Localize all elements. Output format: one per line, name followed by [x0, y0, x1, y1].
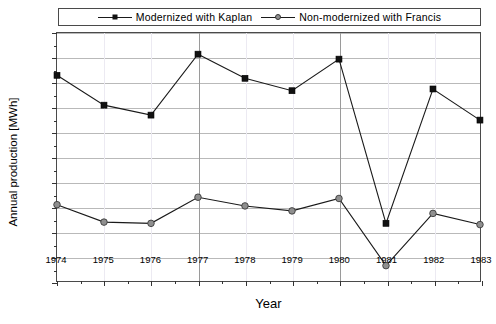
x-axis-tick-label: 1978 [222, 254, 268, 265]
legend-label-francis: Non-modernized with Francis [299, 11, 441, 23]
x-axis-tick-label: 1977 [175, 254, 221, 265]
data-point-circle [477, 221, 484, 228]
data-point-square [54, 72, 60, 78]
x-axis-tick-minor [317, 281, 318, 284]
y-axis-tick [52, 83, 57, 84]
data-point-square [242, 75, 248, 81]
y-axis-tick [52, 33, 57, 34]
y-axis-title: Annual production [MWh] [7, 37, 19, 287]
y-axis-tick-minor [54, 121, 57, 122]
data-point-circle [242, 203, 249, 210]
x-axis-tick-label: 1976 [127, 254, 173, 265]
data-point-square [289, 88, 295, 94]
series-line [57, 54, 480, 223]
y-axis-tick [52, 108, 57, 109]
data-point-circle [430, 210, 437, 217]
series-kaplan [54, 51, 483, 226]
x-axis-tick [104, 281, 105, 286]
y-axis-tick-minor [54, 246, 57, 247]
x-axis-tick-minor [128, 281, 129, 284]
data-point-square [430, 86, 436, 92]
x-axis-tick [482, 281, 483, 286]
y-axis-tick [52, 158, 57, 159]
data-point-square [101, 102, 107, 108]
x-axis-tick [246, 281, 247, 286]
series-layer [57, 33, 480, 282]
x-axis-tick [293, 281, 294, 286]
y-axis-tick-minor [54, 196, 57, 197]
x-axis-tick-minor [270, 281, 271, 284]
data-point-square [477, 117, 483, 123]
data-point-square [195, 51, 201, 57]
x-axis-tick [435, 281, 436, 286]
x-axis-tick-label: 1981 [364, 254, 410, 265]
legend-line-kaplan [98, 17, 132, 18]
data-point-circle [54, 201, 61, 208]
x-axis-tick-minor [411, 281, 412, 284]
open-circle-marker-icon [275, 14, 281, 20]
data-point-square [383, 220, 389, 226]
y-axis-tick-minor [54, 271, 57, 272]
x-axis-tick-label: 1975 [80, 254, 126, 265]
y-axis-tick [52, 183, 57, 184]
data-point-circle [336, 195, 343, 202]
x-axis-tick-minor [81, 281, 82, 284]
y-axis-tick-minor [54, 46, 57, 47]
y-axis-tick [52, 133, 57, 134]
x-axis-tick [388, 281, 389, 286]
x-axis-tick-minor [222, 281, 223, 284]
y-axis-tick-minor [54, 146, 57, 147]
y-axis-tick [52, 233, 57, 234]
y-axis-tick-minor [54, 171, 57, 172]
clipped-header-text [60, 0, 440, 6]
x-axis-tick-minor [364, 281, 365, 284]
legend-item-francis: Non-modernized with Francis [261, 11, 441, 23]
x-axis-tick-label: 1979 [269, 254, 315, 265]
y-axis-tick-minor [54, 71, 57, 72]
data-point-square [148, 112, 154, 118]
x-axis-tick-minor [458, 281, 459, 284]
x-axis-tick [340, 281, 341, 286]
data-point-circle [289, 208, 296, 215]
data-point-square [336, 56, 342, 62]
x-axis-title: Year [56, 296, 481, 311]
chart-legend: Modernized with Kaplan Non-modernized wi… [58, 8, 481, 26]
x-axis-tick-label: 1983 [458, 254, 496, 265]
y-axis-tick-minor [54, 221, 57, 222]
data-point-circle [101, 219, 108, 226]
plot-area [56, 32, 481, 282]
y-axis-tick-minor [54, 96, 57, 97]
legend-item-kaplan: Modernized with Kaplan [98, 11, 252, 23]
x-axis-tick-label: 1982 [411, 254, 457, 265]
x-axis-tick-minor [175, 281, 176, 284]
y-axis-tick [52, 208, 57, 209]
x-axis-tick [57, 281, 58, 286]
legend-line-francis [261, 17, 295, 18]
x-axis-tick [199, 281, 200, 286]
filled-square-marker-icon [112, 15, 117, 20]
x-axis-tick-label: 1980 [316, 254, 362, 265]
data-point-circle [148, 220, 155, 227]
y-axis-tick [52, 58, 57, 59]
data-point-circle [195, 194, 202, 201]
x-axis-tick [151, 281, 152, 286]
legend-label-kaplan: Modernized with Kaplan [136, 11, 252, 23]
x-axis-tick-label: 1974 [33, 254, 79, 265]
